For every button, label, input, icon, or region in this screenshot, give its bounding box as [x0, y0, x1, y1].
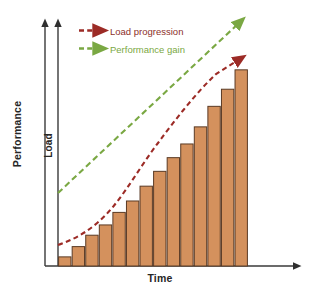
bar	[221, 89, 233, 266]
bar	[154, 171, 166, 266]
chart-figure: Load progression Performance gain Perfor…	[0, 0, 315, 292]
y-axis-title-performance: Performance	[11, 96, 23, 172]
bar	[194, 127, 206, 266]
bar	[59, 257, 71, 266]
bar	[113, 212, 125, 266]
bar	[167, 158, 179, 266]
bar	[235, 70, 247, 266]
bar	[208, 106, 220, 266]
x-axis-title-time: Time	[125, 272, 195, 284]
bar	[99, 225, 111, 266]
bar	[140, 186, 152, 266]
legend-label-load-progression: Load progression	[110, 26, 183, 37]
bar	[72, 247, 84, 266]
bar	[181, 144, 193, 266]
y-axis-title-load: Load	[43, 122, 54, 170]
bar	[86, 235, 98, 266]
bar	[126, 201, 138, 266]
legend-label-performance-gain: Performance gain	[110, 44, 185, 55]
